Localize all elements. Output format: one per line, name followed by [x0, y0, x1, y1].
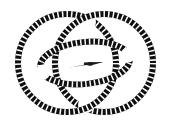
figure-canvas	[0, 0, 171, 134]
center-speck	[118, 65, 120, 67]
interlocking-rings-diagram	[0, 0, 171, 134]
